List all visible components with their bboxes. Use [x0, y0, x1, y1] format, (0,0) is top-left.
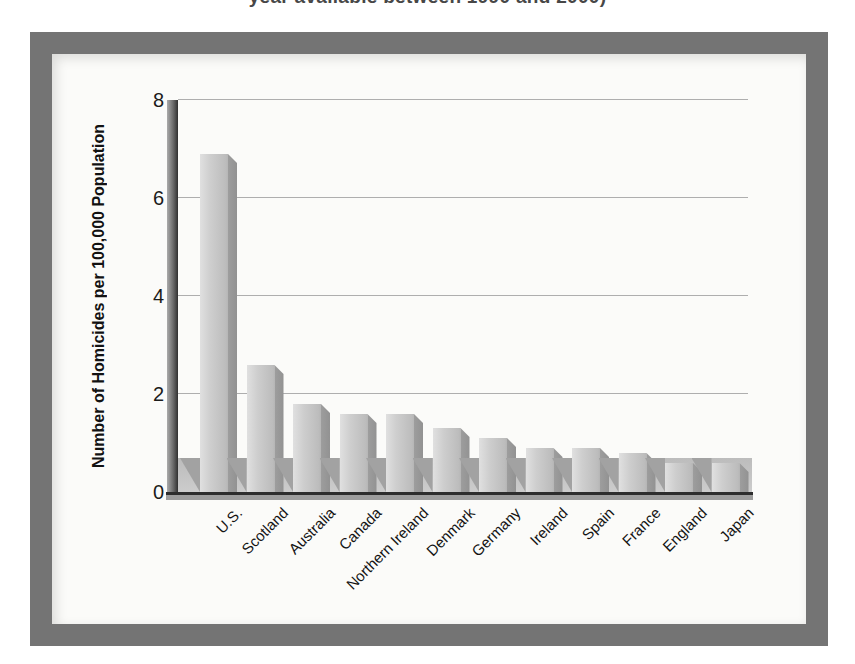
bar-ireland — [526, 448, 563, 492]
figure-caption-clipped: year available between 1990 and 2000) — [0, 0, 855, 6]
x-axis-baseline-shadow — [166, 495, 753, 500]
x-axis-label-ireland: Ireland — [526, 504, 570, 548]
x-axis-label-germany: Germany — [468, 504, 524, 560]
y-axis-title: Number of Homicides per 100,000 Populati… — [86, 98, 112, 494]
gridline-4 — [178, 295, 748, 296]
y-tick-label-6: 6 — [122, 186, 164, 210]
bar-northern-ireland — [386, 414, 423, 492]
chart-3d-wall — [167, 100, 178, 492]
x-axis-label-scotland: Scotland — [238, 504, 291, 557]
y-tick-label-4: 4 — [122, 284, 164, 308]
bar-scotland — [247, 365, 284, 492]
chart-frame: Number of Homicides per 100,000 Populati… — [30, 32, 828, 646]
bar-u-s — [200, 154, 237, 492]
y-tick-label-2: 2 — [122, 382, 164, 406]
x-axis-label-australia: Australia — [285, 504, 338, 557]
bar-australia — [293, 404, 330, 492]
x-axis-label-northern-ireland: Northern Ireland — [342, 504, 431, 593]
x-axis-label-spain: Spain — [578, 504, 617, 543]
chart-panel: Number of Homicides per 100,000 Populati… — [52, 54, 806, 624]
x-axis-label-england: England — [659, 504, 710, 555]
x-axis-label-u-s: U.S. — [212, 504, 245, 537]
bar-japan — [712, 463, 749, 492]
x-axis-label-france: France — [618, 504, 663, 549]
bar-canada — [340, 414, 377, 492]
y-tick-label-0: 0 — [122, 480, 164, 504]
gridline-6 — [178, 197, 748, 198]
y-tick-label-8: 8 — [122, 88, 164, 112]
bar-england — [665, 463, 702, 492]
x-axis-label-japan: Japan — [716, 504, 757, 545]
x-axis-label-denmark: Denmark — [422, 504, 477, 559]
plot-area: U.S.ScotlandAustraliaCanadaNorthern Irel… — [178, 100, 748, 492]
gridline-8 — [178, 99, 748, 100]
page: year available between 1990 and 2000) Nu… — [0, 0, 855, 664]
bar-spain — [572, 448, 609, 492]
